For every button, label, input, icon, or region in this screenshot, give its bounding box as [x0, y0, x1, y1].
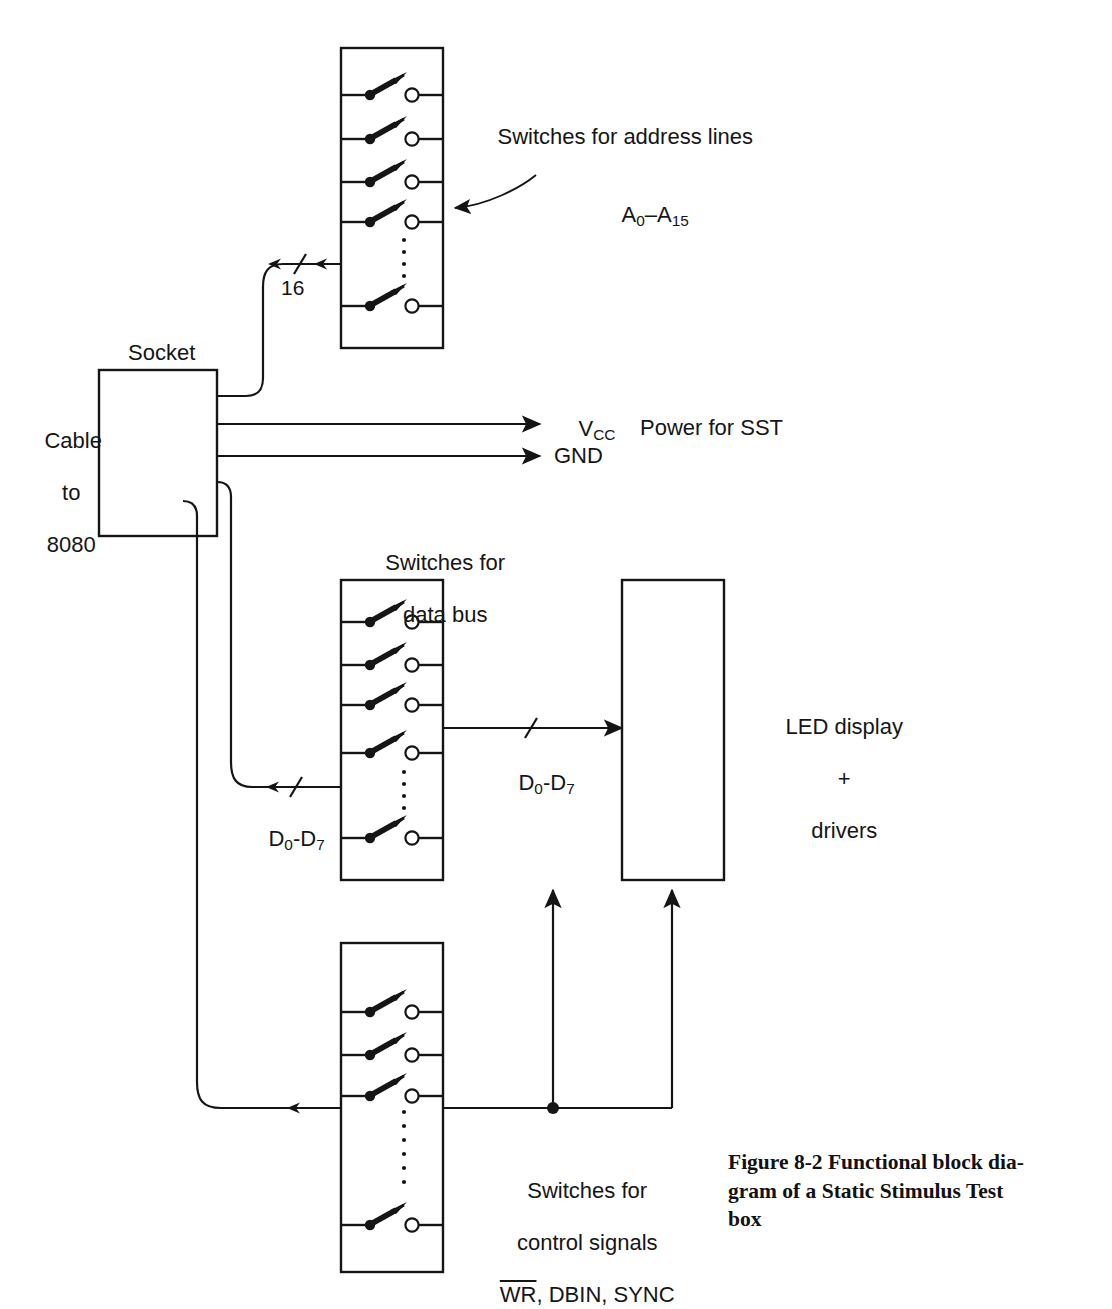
- socket-label: Socket: [128, 340, 195, 366]
- address-range-prefix: A: [622, 202, 637, 227]
- address-range-sub-end: 15: [672, 212, 689, 229]
- data-right-sub-start: 0: [534, 780, 543, 797]
- cable-label: Cable to 8080: [20, 402, 98, 584]
- caption-line-3: box: [728, 1205, 1048, 1234]
- control-switch-rows: [341, 989, 443, 1232]
- control-switches-label: Switches for control signals WR, DBIN, S…: [440, 1152, 710, 1309]
- data-switches-label: Switches for data bus: [338, 524, 528, 654]
- data-right-prefix: D: [518, 770, 534, 795]
- address-switch-rows: [341, 72, 443, 313]
- cable-label-line1: Cable: [44, 428, 101, 453]
- control-ellipsis: [402, 1110, 406, 1184]
- caption-line-2: gram of a Static Stimulus Test: [728, 1177, 1048, 1206]
- data-bus-left-label: D0-D7: [244, 800, 325, 880]
- control-switch-box: [341, 943, 443, 1272]
- led-display-label-line3: drivers: [811, 818, 877, 843]
- data-right-sub-end: 7: [566, 780, 575, 797]
- data-left-sub-end: 7: [316, 836, 325, 853]
- data-left-prefix: D: [268, 826, 284, 851]
- socket-box: [99, 370, 217, 536]
- control-signal-wr: WR: [500, 1282, 537, 1307]
- data-left-sub-start: 0: [284, 836, 293, 853]
- address-switch-box: [341, 48, 443, 348]
- led-display-label: LED display + drivers: [742, 688, 922, 870]
- data-bus-line: [217, 482, 341, 787]
- vcc-prefix: V: [578, 416, 593, 441]
- gnd-label: GND: [554, 443, 603, 469]
- vcc-subscript: CC: [593, 426, 615, 443]
- cable-label-line2: to: [62, 480, 80, 505]
- led-display-label-line2: +: [838, 766, 851, 791]
- address-switches-label: Switches for address lines A0–A15: [473, 98, 753, 282]
- control-switches-label-line1: Switches for: [527, 1178, 647, 1203]
- data-right-dash: -D: [543, 770, 566, 795]
- power-note-label: Power for SST: [640, 415, 783, 441]
- address-switches-label-line1: Switches for address lines: [497, 124, 753, 149]
- socket-to-address-line: [217, 370, 263, 396]
- control-switches-label-line2: control signals: [517, 1230, 658, 1255]
- data-switches-label-line2: data bus: [403, 602, 487, 627]
- control-signal-rest: , DBIN, SYNC: [536, 1282, 674, 1307]
- address-ellipsis: [402, 238, 406, 278]
- figure-canvas: Switches for address lines A0–A15 16 Soc…: [0, 0, 1112, 1309]
- caption-line-1: Figure 8-2 Functional block dia-: [728, 1148, 1048, 1177]
- cable-label-line3: 8080: [47, 532, 96, 557]
- data-switches-label-line1: Switches for: [385, 550, 505, 575]
- data-ellipsis: [402, 770, 406, 810]
- bus-junction-dot: [547, 1102, 559, 1114]
- data-bus-right-label: D0-D7: [494, 744, 575, 824]
- figure-caption: Figure 8-2 Functional block dia- gram of…: [728, 1148, 1048, 1234]
- address-bus-width-label: 16: [281, 276, 304, 301]
- led-display-label-line1: LED display: [786, 714, 903, 739]
- address-range-dash: –A: [645, 202, 672, 227]
- led-display-box: [622, 580, 724, 880]
- address-range-sub-start: 0: [636, 212, 645, 229]
- data-left-dash: -D: [293, 826, 316, 851]
